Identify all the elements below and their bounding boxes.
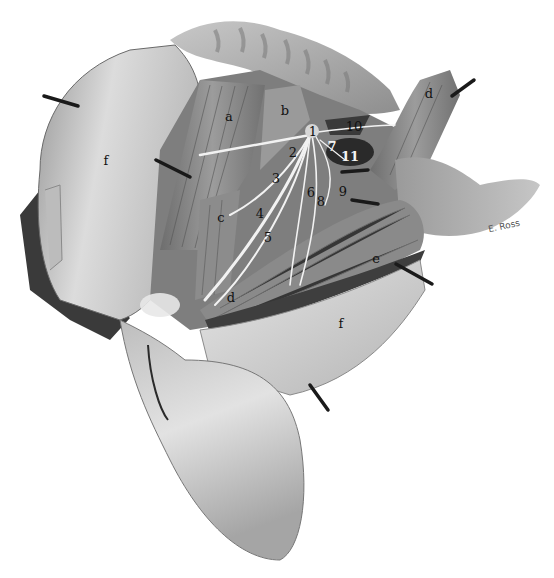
label-6: 6 xyxy=(307,186,315,199)
label-c: c xyxy=(217,211,224,224)
label-5: 5 xyxy=(264,231,272,244)
label-3: 3 xyxy=(272,172,280,185)
label-7: 7 xyxy=(327,140,336,153)
label-8: 8 xyxy=(317,195,325,208)
label-e: e xyxy=(372,252,380,265)
label-11: 11 xyxy=(341,150,359,163)
label-10: 10 xyxy=(346,120,363,133)
label-1: 1 xyxy=(309,125,317,138)
label-f-left: f xyxy=(104,154,109,167)
anatomical-figure xyxy=(0,0,554,578)
label-2: 2 xyxy=(289,146,297,159)
label-4: 4 xyxy=(256,207,264,220)
label-b: b xyxy=(281,104,289,117)
label-f-bottom: f xyxy=(339,317,344,330)
label-d-top: d xyxy=(425,87,433,100)
label-a: a xyxy=(225,110,233,123)
label-d-bottom: d xyxy=(227,291,235,304)
label-9: 9 xyxy=(339,185,347,198)
